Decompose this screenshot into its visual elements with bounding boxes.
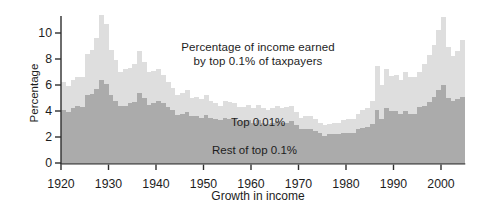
bar-rest-1974 xyxy=(318,133,323,163)
bar-top001-1952 xyxy=(213,103,218,119)
bar-rest-1947 xyxy=(189,116,194,163)
bar-rest-1988 xyxy=(384,108,389,163)
y-tick-label-0: 0 xyxy=(45,156,52,170)
bar-top001-1998 xyxy=(432,45,437,97)
bar-rest-1943 xyxy=(170,110,175,163)
bar-top001-1980 xyxy=(346,119,351,133)
bar-rest-1920 xyxy=(61,110,66,163)
bar-rest-1941 xyxy=(161,103,166,163)
bar-rest-1954 xyxy=(223,118,228,164)
bar-top001-1996 xyxy=(422,64,427,106)
bar-top001-1981 xyxy=(351,119,356,133)
bar-rest-1990 xyxy=(394,111,399,163)
bar-top001-1969 xyxy=(294,112,299,125)
bar-top001-2001 xyxy=(446,47,451,98)
bar-top001-1932 xyxy=(118,72,123,106)
bar-rest-1938 xyxy=(147,105,152,164)
y-axis-label: Percentage xyxy=(28,37,42,149)
bar-rest-1934 xyxy=(128,103,133,163)
chart-plot: 0246810192019301940195019601970198019902… xyxy=(0,0,481,212)
bar-rest-1983 xyxy=(360,128,365,163)
bar-rest-1985 xyxy=(370,124,375,163)
bar-top001-1975 xyxy=(322,125,327,135)
bar-top001-1982 xyxy=(356,114,361,130)
bar-rest-1967 xyxy=(284,123,289,163)
bar-top001-1987 xyxy=(379,85,384,119)
bar-rest-1971 xyxy=(303,129,308,163)
bar-rest-1953 xyxy=(218,120,223,163)
bar-rest-1931 xyxy=(113,101,118,163)
x-tick-label-1930: 1930 xyxy=(95,177,123,191)
income-share-figure: 0246810192019301940195019601970198019902… xyxy=(0,0,481,212)
bar-rest-1930 xyxy=(109,95,114,163)
bar-rest-1968 xyxy=(289,121,294,163)
bar-top001-1968 xyxy=(289,106,294,122)
bar-top001-2000 xyxy=(441,17,446,85)
bar-rest-1987 xyxy=(379,119,384,163)
bar-rest-2002 xyxy=(451,101,456,163)
bar-top001-1976 xyxy=(327,124,332,134)
bar-top001-2003 xyxy=(455,51,460,99)
bar-top001-1992 xyxy=(403,72,408,111)
y-tick-label-6: 6 xyxy=(45,78,52,92)
bar-top001-1949 xyxy=(199,99,204,117)
bar-rest-1982 xyxy=(356,129,361,163)
bar-top001-1942 xyxy=(166,82,171,107)
bar-top001-1948 xyxy=(194,97,199,117)
bar-rest-1997 xyxy=(427,102,432,163)
bar-top001-1994 xyxy=(413,77,418,113)
bar-top001-1995 xyxy=(417,72,422,107)
bar-top001-1990 xyxy=(394,75,399,111)
bar-rest-1993 xyxy=(408,114,413,163)
bar-rest-1995 xyxy=(417,107,422,163)
bar-top001-1923 xyxy=(75,77,80,106)
bar-top001-1970 xyxy=(299,118,304,130)
bar-top001-2002 xyxy=(451,56,456,100)
y-tick-label-2: 2 xyxy=(45,130,52,144)
bar-rest-1962 xyxy=(261,123,266,163)
bar-rest-1976 xyxy=(327,134,332,163)
bar-rest-2004 xyxy=(460,97,465,163)
bar-top001-1954 xyxy=(223,101,228,118)
bar-rest-1921 xyxy=(66,112,71,163)
bar-top001-1951 xyxy=(208,101,213,118)
bar-top001-1977 xyxy=(332,123,337,135)
bar-top001-1953 xyxy=(218,106,223,120)
bar-top001-1945 xyxy=(180,93,185,114)
bar-rest-1928 xyxy=(99,80,104,163)
bar-rest-1992 xyxy=(403,111,408,163)
bar-top001-1993 xyxy=(408,77,413,113)
bar-rest-1923 xyxy=(75,106,80,163)
bar-rest-1929 xyxy=(104,84,109,163)
bar-top001-1947 xyxy=(189,98,194,116)
bar-top001-1937 xyxy=(142,62,147,98)
chart-title: Percentage of income earned by top 0.1% … xyxy=(158,41,358,68)
bar-top001-1979 xyxy=(341,120,346,133)
bar-rest-1944 xyxy=(175,115,180,163)
bar-top001-1926 xyxy=(90,50,95,94)
x-tick-label-1920: 1920 xyxy=(47,177,75,191)
bar-rest-1945 xyxy=(180,114,185,163)
bar-rest-1978 xyxy=(337,134,342,163)
bar-top001-1930 xyxy=(109,50,114,96)
bar-rest-1966 xyxy=(280,123,285,163)
bar-top001-1934 xyxy=(128,68,133,103)
bar-rest-1952 xyxy=(213,119,218,163)
bar-top001-1950 xyxy=(204,95,209,115)
bar-rest-1922 xyxy=(71,108,76,163)
bar-rest-1951 xyxy=(208,118,213,164)
bar-rest-1996 xyxy=(422,106,427,163)
bar-rest-1948 xyxy=(194,116,199,163)
bar-top001-1991 xyxy=(398,80,403,114)
bar-rest-1999 xyxy=(436,90,441,163)
bar-top001-1922 xyxy=(71,80,76,109)
bar-top001-1971 xyxy=(303,116,308,129)
bar-rest-1932 xyxy=(118,106,123,163)
bar-rest-1975 xyxy=(322,136,327,163)
bar-top001-1938 xyxy=(147,72,152,105)
x-axis-label: Growth in income xyxy=(158,189,358,203)
bar-top001-1946 xyxy=(185,90,190,112)
bar-rest-2003 xyxy=(455,99,460,163)
bar-rest-1970 xyxy=(299,129,304,163)
bar-rest-1936 xyxy=(137,93,142,163)
